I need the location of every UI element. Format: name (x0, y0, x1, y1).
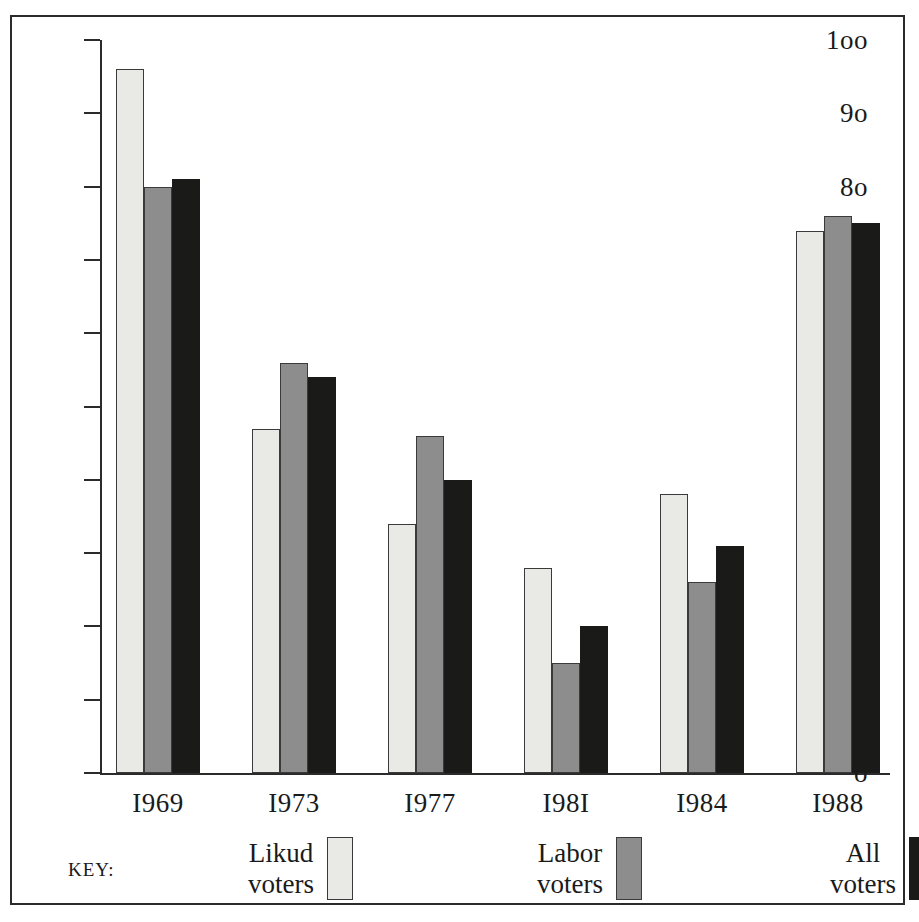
x-axis-label-1981: I98I (543, 788, 590, 819)
legend-item-all: Allvoters (830, 837, 919, 900)
legend-label-line2: voters (248, 869, 314, 899)
legend-label-line1: Likud (248, 838, 314, 868)
bar-1977-labor (416, 436, 444, 773)
bar-1973-likud (252, 429, 280, 774)
legend-item-labor: Laborvoters (537, 837, 642, 900)
x-axis-label-1977: I977 (404, 788, 456, 819)
bar-1984-labor (688, 582, 716, 773)
bar-1984-likud (660, 494, 688, 773)
legend-swatch-labor (616, 837, 642, 900)
bar-1988-labor (824, 216, 852, 773)
x-axis-label-1969: I969 (132, 788, 184, 819)
bar-1969-labor (144, 187, 172, 773)
y-tick-100 (84, 39, 100, 41)
legend-label-likud: Likudvoters (248, 838, 314, 898)
bar-1981-labor (552, 663, 580, 773)
legend-swatch-likud (327, 837, 353, 900)
legend-label-labor: Laborvoters (537, 838, 603, 898)
legend-label-line1: Labor (537, 838, 603, 868)
y-tick-90 (84, 112, 100, 114)
y-tick-20 (84, 625, 100, 627)
x-axis-label-1984: I984 (676, 788, 728, 819)
y-tick-70 (84, 259, 100, 261)
legend-swatch-all (909, 837, 919, 900)
chart-figure: o1o2o3o4o5o6o7o8o9o1oo I969I973I977I98II… (10, 15, 905, 905)
bar-1977-likud (388, 524, 416, 773)
bar-1981-likud (524, 568, 552, 773)
y-tick-30 (84, 552, 100, 554)
plot-area: o1o2o3o4o5o6o7o8o9o1oo I969I973I977I98II… (100, 26, 890, 781)
bar-1969-likud (116, 69, 144, 773)
legend-label-line1: All (830, 838, 896, 868)
bar-1988-all (852, 223, 880, 773)
x-axis-line (100, 773, 890, 775)
bar-1973-all (308, 377, 336, 773)
y-tick-0 (84, 772, 100, 774)
legend-label-line2: voters (830, 869, 896, 899)
bars-layer (102, 26, 890, 773)
bar-1977-all (444, 480, 472, 773)
y-tick-50 (84, 406, 100, 408)
bar-1973-labor (280, 363, 308, 773)
y-tick-80 (84, 186, 100, 188)
y-tick-40 (84, 479, 100, 481)
bar-1969-all (172, 179, 200, 773)
chart-legend: KEY: LikudvotersLaborvotersAllvoters (12, 837, 903, 903)
legend-key-label: KEY: (68, 859, 115, 881)
y-tick-60 (84, 332, 100, 334)
bar-1981-all (580, 626, 608, 773)
legend-label-all: Allvoters (830, 838, 896, 898)
legend-label-line2: voters (537, 869, 603, 899)
bar-1984-all (716, 546, 744, 773)
x-axis-label-1973: I973 (268, 788, 320, 819)
y-tick-10 (84, 699, 100, 701)
bar-1988-likud (796, 231, 824, 773)
x-axis-label-1988: I988 (812, 788, 864, 819)
legend-item-likud: Likudvoters (248, 837, 353, 900)
